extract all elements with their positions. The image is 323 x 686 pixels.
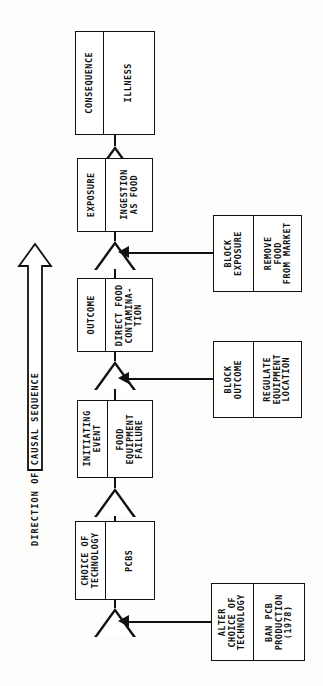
node-outcome-stage-label: OUTCOME — [87, 295, 97, 334]
intervention-arrow-line-block-exposure — [129, 252, 213, 254]
intervention-block-outcome-stage-cell: BLOCK OUTCOME — [214, 342, 254, 417]
intervention-arrowhead-block-exposure — [118, 246, 129, 258]
node-outcome[interactable]: OUTCOME DIRECT FOOD CONTAMINA- TION — [77, 278, 153, 352]
intervention-alter-technology-value: BAN PCB PRODUCTION (1978) — [265, 594, 294, 650]
intervention-alter-technology-value-cell: BAN PCB PRODUCTION (1978) — [254, 584, 304, 660]
intervention-block-exposure-stage-cell: BLOCK EXPOSURE — [214, 216, 254, 291]
node-outcome-value: DIRECT FOOD CONTAMINA- TION — [115, 284, 144, 346]
intervention-arrowhead-alter-technology — [118, 615, 129, 627]
direction-of-causal-sequence-arrow: DIRECTION OF CAUSAL SEQUENCE — [17, 242, 53, 472]
connector-stem-exposure-bottom — [114, 232, 116, 241]
node-choice-of-technology-value-cell: PCBS — [106, 522, 154, 599]
intervention-block-exposure[interactable]: BLOCK EXPOSURE REMOVE FOOD FROM MARKET — [213, 215, 302, 292]
intervention-alter-choice-of-technology[interactable]: ALTER CHOICE OF TECHNOLOGY BAN PCB PRODU… — [211, 583, 305, 661]
intervention-arrowhead-block-outcome — [118, 372, 129, 384]
connector-stem-outcome-bottom — [114, 352, 116, 361]
intervention-arrow-line-alter-technology — [129, 621, 211, 623]
intervention-arrow-line-block-outcome — [129, 378, 213, 380]
intervention-block-outcome-value: REGULATE EQUIPMENT LOCATION — [263, 354, 292, 405]
connector-stem-initiating-bottom — [114, 478, 116, 488]
node-initiating-event-value-cell: FOOD EQUIPMENT FAILURE — [108, 401, 152, 477]
intervention-block-outcome[interactable]: BLOCK OUTCOME REGULATE EQUIPMENT LOCATIO… — [213, 341, 302, 418]
node-initiating-event-stage-cell: INITIATING EVENT — [78, 401, 108, 477]
block-arrow-shape — [17, 242, 53, 472]
node-exposure-stage-label: EXPOSURE — [87, 173, 97, 218]
node-consequence[interactable]: CONSEQUENCE ILLNESS — [75, 31, 155, 135]
node-initiating-event[interactable]: INITIATING EVENT FOOD EQUIPMENT FAILURE — [77, 400, 153, 478]
intervention-alter-technology-stage-cell: ALTER CHOICE OF TECHNOLOGY — [212, 584, 254, 660]
causal-sequence-diagram: DIRECTION OF CAUSAL SEQUENCE CONSEQUENCE… — [0, 0, 323, 686]
node-choice-of-technology-stage-cell: CHOICE OF TECHNOLOGY — [76, 522, 106, 599]
intervention-block-exposure-value-cell: REMOVE FOOD FROM MARKET — [254, 216, 301, 291]
node-consequence-value-cell: ILLNESS — [104, 32, 154, 134]
node-outcome-stage-cell: OUTCOME — [78, 279, 106, 351]
node-choice-of-technology-value: PCBS — [125, 549, 135, 571]
node-outcome-value-cell: DIRECT FOOD CONTAMINA- TION — [106, 279, 152, 351]
node-initiating-event-value: FOOD EQUIPMENT FAILURE — [116, 414, 145, 465]
node-consequence-stage-label: CONSEQUENCE — [85, 52, 95, 114]
node-initiating-event-stage-label: INITIATING EVENT — [83, 411, 102, 467]
connector-stem-consequence — [114, 135, 116, 146]
connector-stem-technology-bottom — [114, 600, 116, 608]
node-consequence-value: ILLNESS — [124, 63, 134, 102]
intervention-block-exposure-stage-label: BLOCK EXPOSURE — [224, 231, 243, 276]
node-exposure-value-cell: INGESTION AS FOOD — [106, 159, 152, 231]
node-choice-of-technology[interactable]: CHOICE OF TECHNOLOGY PCBS — [75, 521, 155, 600]
intervention-block-exposure-value: REMOVE FOOD FROM MARKET — [263, 223, 292, 285]
node-consequence-stage-cell: CONSEQUENCE — [76, 32, 104, 134]
node-choice-of-technology-stage-label: CHOICE OF TECHNOLOGY — [81, 532, 100, 588]
intervention-block-outcome-stage-label: BLOCK OUTCOME — [224, 360, 243, 399]
node-exposure-value: INGESTION AS FOOD — [119, 170, 138, 221]
node-exposure-stage-cell: EXPOSURE — [78, 159, 106, 231]
intervention-alter-technology-stage-label: ALTER CHOICE OF TECHNOLOGY — [218, 594, 247, 650]
intervention-block-outcome-value-cell: REGULATE EQUIPMENT LOCATION — [254, 342, 301, 417]
node-exposure[interactable]: EXPOSURE INGESTION AS FOOD — [77, 158, 153, 232]
